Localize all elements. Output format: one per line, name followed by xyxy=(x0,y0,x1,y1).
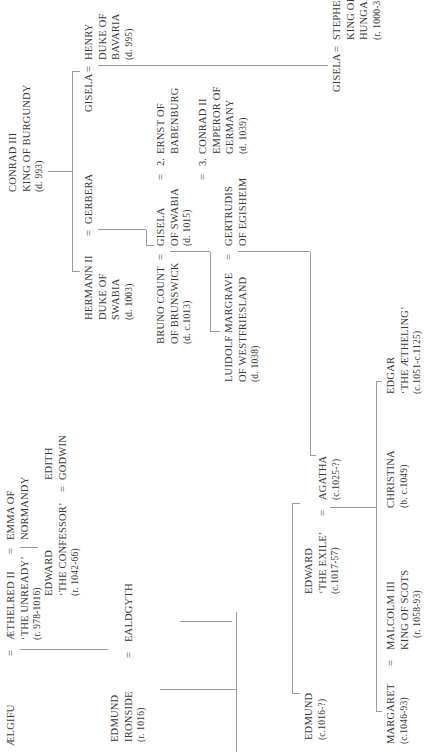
connector xyxy=(146,245,154,246)
person-henry-duke-of-bavaria: HENRY DUKE OF BAVARIA (d. 995) xyxy=(82,13,136,60)
marriage-symbol: = xyxy=(330,46,344,52)
connector xyxy=(330,507,376,508)
dates: (r. 1042-66) xyxy=(69,502,83,596)
person-edmund-son: EDMUND (c.1016-?) xyxy=(302,693,329,740)
person-edward-the-confessor: EDWARD ‘THE CONFESSOR’ (r. 1042-66) xyxy=(42,502,83,596)
name: GERTRUDIS xyxy=(222,178,236,246)
person-aethelred-ii: ÆTHELRED II ‘THE UNREADY’ (r. 978-1016) xyxy=(4,556,45,640)
dates: (r. 1016) xyxy=(135,691,149,742)
title: DUKE OF xyxy=(96,255,110,320)
name: AGATHA xyxy=(316,456,330,500)
dates: (d. 993) xyxy=(33,84,47,192)
name: GISELA xyxy=(82,73,96,112)
connector xyxy=(376,381,382,382)
person-edith-godwin: EDITH GODWIN xyxy=(42,435,69,480)
epithet: IRONSIDE xyxy=(122,691,136,742)
person-hermann-ii: HERMANN II DUKE OF SWABIA (d. 1003) xyxy=(82,255,136,320)
title: KING OF BURGUNDY xyxy=(20,84,34,192)
marriage-number: 3. xyxy=(196,158,210,166)
name: GERBERA xyxy=(82,174,96,224)
connector xyxy=(160,689,236,690)
name: CONRAD III xyxy=(6,84,20,192)
person-christina: CHRISTINA (b. c.1049) xyxy=(384,450,411,508)
name: EDITH xyxy=(42,435,56,480)
epithet: ‘THE ÆTHELING’ xyxy=(398,306,412,394)
connector xyxy=(238,251,310,252)
title: DUKE OF xyxy=(96,13,110,60)
person-aelgifu: ÆLGIFU xyxy=(4,705,18,746)
title: OF SWABIA xyxy=(168,188,182,246)
dates: (c.1017-57) xyxy=(329,531,343,594)
name: MARGARET xyxy=(384,683,398,744)
dates: (b. c.1049) xyxy=(398,450,412,508)
connector xyxy=(236,612,237,752)
connector xyxy=(72,271,80,272)
marriage-symbol: = xyxy=(384,660,398,666)
connector xyxy=(210,331,220,332)
title: OF WESTFRIESLAND xyxy=(236,273,250,382)
title: OF EGISHEIM xyxy=(236,178,250,246)
name: CHRISTINA xyxy=(384,450,398,508)
name-line-2: NORMANDY xyxy=(18,477,32,540)
connector xyxy=(98,229,146,230)
name: HENRY xyxy=(82,13,96,60)
name: BRUNO COUNT xyxy=(154,263,168,344)
person-conrad-iii: CONRAD III KING OF BURGUNDY (d. 993) xyxy=(6,84,47,192)
person-gisela-of-swabia: GISELA OF SWABIA (d. 1015) xyxy=(154,188,195,246)
dates: (c.1025-?) xyxy=(330,456,344,500)
marriage-symbol: = xyxy=(4,650,18,656)
connector xyxy=(48,171,72,172)
name: EDWARD xyxy=(302,531,316,594)
family-tree-diagram: ÆLGIFU = ÆTHELRED II ‘THE UNREADY’ (r. 9… xyxy=(0,0,443,752)
connector xyxy=(292,503,300,504)
person-edgar-the-aetheling: EDGAR ‘THE ÆTHELING’ (c.1051-c.1125) xyxy=(384,306,425,394)
marriage-symbol: = xyxy=(196,174,210,180)
epithet: ‘THE UNREADY’ xyxy=(18,556,32,640)
person-malcolm-iii: MALCOLM III KING OF SCOTS (r. 1058-93) xyxy=(384,570,425,650)
dates: (c.1046-93) xyxy=(398,683,412,744)
person-margaret: MARGARET (c.1046-93) xyxy=(384,683,411,744)
person-edmund-ironside: EDMUND IRONSIDE (r. 1016) xyxy=(108,691,149,742)
person-bruno-of-brunswick: BRUNO COUNT OF BRUNSWICK (d. c.1013) xyxy=(154,263,195,344)
connector xyxy=(72,71,80,72)
name: GISELA xyxy=(330,53,344,92)
person-ernst-of-babenburg: ERNST OF BABENBURG xyxy=(154,87,181,154)
dates: (d. 1039) xyxy=(237,86,251,154)
person-edward-the-exile: EDWARD ‘THE EXILE’ (c.1017-57) xyxy=(302,531,343,594)
connector xyxy=(376,711,382,712)
title-line-2: SWABIA xyxy=(109,255,123,320)
connector xyxy=(20,547,38,548)
marriage-symbol: = xyxy=(82,66,96,72)
name: EDMUND xyxy=(302,693,316,740)
connector xyxy=(180,621,232,622)
dates: (c.1051-c.1125) xyxy=(411,306,425,394)
person-conrad-ii: CONRAD II EMPEROR OF GERMANY (d. 1039) xyxy=(196,86,250,154)
connector xyxy=(210,252,211,332)
title: EMPEROR OF xyxy=(210,86,224,154)
title-line-2: BAVARIA xyxy=(109,13,123,60)
connector xyxy=(310,252,311,456)
marriage-symbol: = xyxy=(82,230,96,236)
marriage-symbol: = xyxy=(56,486,70,492)
connector xyxy=(376,382,377,712)
name: LUIDOLF MARGRAVE xyxy=(222,273,236,382)
name: EDGAR xyxy=(384,306,398,394)
marriage-symbol: = xyxy=(122,652,136,658)
person-gisela-of-hungary: GISELA xyxy=(330,53,344,92)
name: STEPHEN I xyxy=(330,0,344,40)
name: EALDGYTH xyxy=(122,583,136,642)
person-gisela-of-burgundy: GISELA xyxy=(82,73,96,112)
connector xyxy=(292,504,293,694)
marriage-symbol: = xyxy=(154,254,168,260)
name: HERMANN II xyxy=(82,255,96,320)
name-line-2: GODWIN xyxy=(56,435,70,480)
marriage-symbol: = xyxy=(316,510,330,516)
marriage-symbol: = xyxy=(222,254,236,260)
title-line-2: GERMANY xyxy=(223,86,237,154)
connector xyxy=(146,230,147,246)
connector xyxy=(310,455,316,456)
name: CONRAD II xyxy=(196,86,210,154)
connector xyxy=(292,693,300,694)
person-gerbera: GERBERA xyxy=(82,174,96,224)
title-line-2: HUNGARY xyxy=(357,0,371,40)
